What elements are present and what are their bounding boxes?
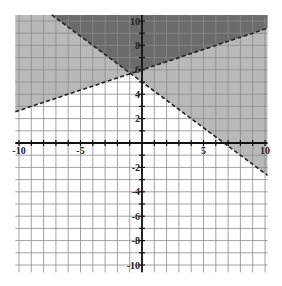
y-tick-label: 2 — [135, 113, 140, 124]
inequality-graph: -10-5510108642-2-4-6-8-10 — [0, 0, 282, 286]
y-tick-label: 4 — [135, 89, 140, 100]
y-tick-label: 8 — [135, 40, 140, 51]
x-tick-label: 5 — [201, 145, 206, 156]
x-tick-label: 10 — [260, 145, 270, 156]
x-tick-label: -5 — [76, 145, 84, 156]
y-tick-label: -8 — [132, 235, 140, 246]
y-tick-label: -10 — [127, 260, 140, 271]
y-tick-label: 6 — [135, 64, 140, 75]
y-tick-label: -6 — [132, 211, 140, 222]
y-tick-label: -2 — [132, 162, 140, 173]
y-tick-label: 10 — [130, 16, 140, 27]
x-tick-label: -10 — [12, 145, 25, 156]
y-tick-label: -4 — [132, 186, 140, 197]
